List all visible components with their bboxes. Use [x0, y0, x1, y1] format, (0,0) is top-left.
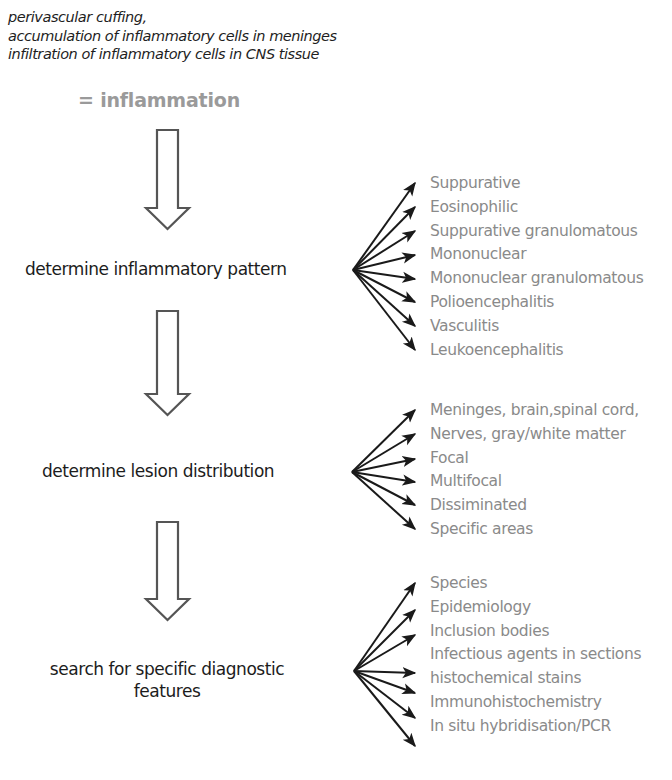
option-item: Focal — [430, 447, 639, 471]
branch-arrows-diagnostic — [354, 583, 415, 746]
inflammatory-pattern-options: Suppurative Eosinophilic Suppurative gra… — [430, 172, 643, 362]
option-item: histochemical stains — [430, 667, 641, 691]
option-item: Eosinophilic — [430, 196, 643, 220]
branch-arrows-pattern — [353, 183, 415, 350]
option-item: Immunohistochemistry — [430, 691, 641, 715]
option-item: In situ hybridisation/PCR — [430, 715, 641, 739]
lesion-distribution-options: Meninges, brain,spinal cord, Nerves, gra… — [430, 399, 639, 542]
option-item: Mononuclear granulomatous — [430, 267, 643, 291]
option-item: Dissiminated — [430, 494, 639, 518]
option-item: Inclusion bodies — [430, 620, 641, 644]
option-item: Leukoencephalitis — [430, 339, 643, 363]
option-item: Infectious agents in sections — [430, 643, 641, 667]
option-item: Suppurative — [430, 172, 643, 196]
option-item: Species — [430, 572, 641, 596]
step-label-line: search for specific diagnostic — [42, 658, 292, 680]
down-arrow-icon — [146, 311, 189, 415]
step-label-line: features — [42, 680, 292, 702]
option-item: Specific areas — [430, 518, 639, 542]
option-item: Nerves, gray/white matter — [430, 423, 639, 447]
down-arrow-icon — [146, 522, 189, 620]
option-item: Vasculitis — [430, 315, 643, 339]
option-item: Polioencephalitis — [430, 291, 643, 315]
step-specific-diagnostic-features: search for specific diagnostic features — [42, 658, 292, 702]
option-item: Mononuclear — [430, 243, 643, 267]
branch-arrows-distribution — [352, 410, 415, 529]
option-item: Epidemiology — [430, 596, 641, 620]
diagnostic-features-options: Species Epidemiology Inclusion bodies In… — [430, 572, 641, 739]
step-inflammatory-pattern: determine inflammatory pattern — [25, 258, 287, 280]
down-arrow-icon — [146, 130, 189, 229]
option-item: Multifocal — [430, 470, 639, 494]
step-lesion-distribution: determine lesion distribution — [42, 460, 274, 482]
option-item: Meninges, brain,spinal cord, — [430, 399, 639, 423]
option-item: Suppurative granulomatous — [430, 220, 643, 244]
